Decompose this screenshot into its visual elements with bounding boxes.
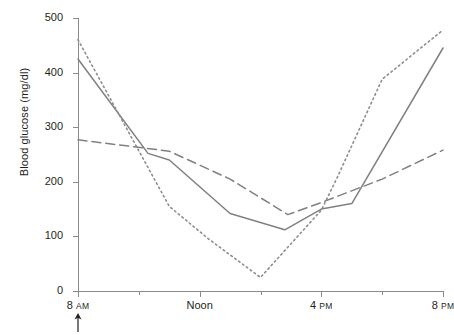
- series-line-dashed: [78, 140, 443, 215]
- series-line-dotted: [78, 30, 443, 277]
